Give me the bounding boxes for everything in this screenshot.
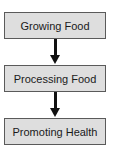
node-growing-food: Growing Food xyxy=(4,12,106,39)
node-label: Promoting Health xyxy=(13,126,98,138)
node-label: Processing Food xyxy=(14,73,97,85)
node-label: Growing Food xyxy=(20,20,89,32)
node-processing-food: Processing Food xyxy=(4,65,106,92)
node-promoting-health: Promoting Health xyxy=(4,118,106,145)
